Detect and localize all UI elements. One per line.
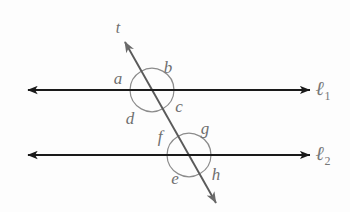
arc-angle-a xyxy=(130,71,141,90)
arc-angle-h xyxy=(200,155,211,174)
geometry-figure: t a b c d f g e h ℓ1 ℓ2 xyxy=(0,0,350,212)
transversal-label-t: t xyxy=(116,20,120,36)
arc-angle-f xyxy=(167,136,178,155)
line-label-l2: ℓ2 xyxy=(316,143,331,167)
angle-label-h: h xyxy=(212,166,221,183)
line-label-l1: ℓ1 xyxy=(316,78,331,102)
ell-subscript-1: 1 xyxy=(324,89,330,103)
angle-label-b: b xyxy=(164,59,173,76)
ell-subscript-2: 2 xyxy=(324,154,330,168)
ell-glyph-2: ℓ xyxy=(316,141,324,165)
angle-label-e: e xyxy=(171,170,179,187)
angle-label-c: c xyxy=(175,98,183,115)
angle-label-f: f xyxy=(158,128,163,145)
arc-angle-c xyxy=(163,90,174,109)
angle-label-g: g xyxy=(201,120,210,137)
angle-label-a: a xyxy=(114,70,123,87)
angle-label-d: d xyxy=(126,110,135,127)
ell-glyph-1: ℓ xyxy=(316,76,324,100)
